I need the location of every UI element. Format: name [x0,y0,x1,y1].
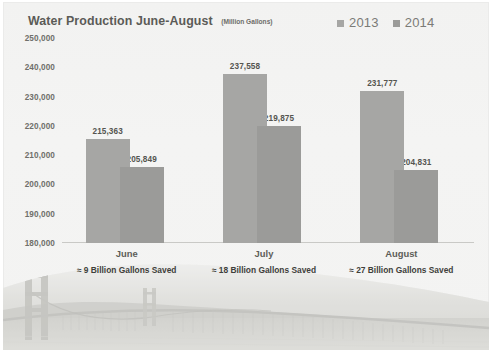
bar-group-august: 231,777204,831 [337,38,474,243]
y-axis-tick-label: 240,000 [25,63,55,72]
bar-june-2014[interactable] [120,167,164,243]
legend-label: 2013 [349,15,379,30]
bar-value-label: 215,363 [93,127,123,136]
savings-annotation-june: ≈ 9 Billion Gallons Saved [77,265,177,275]
savings-annotation-july: ≈ 18 Billion Gallons Saved [212,265,316,275]
bar-value-label: 204,831 [401,158,431,167]
chart-legend: 20132014 [337,15,434,30]
legend-swatch-icon [337,20,344,27]
y-axis-tick-label: 230,000 [25,92,55,101]
legend-item-2013[interactable]: 2013 [337,15,379,30]
y-axis-tick-label: 190,000 [25,209,55,218]
bar-value-label: 205,849 [127,155,157,164]
bar-value-label: 219,875 [264,114,294,123]
page-title: Water Production June-August [28,14,213,28]
legend-item-2014[interactable]: 2014 [393,15,435,30]
chart-plot-area: 250,000240,000230,000220,000210,000200,0… [62,38,474,243]
x-axis-category-august: August [385,248,417,259]
bar-value-label: 237,558 [230,62,260,71]
bar-august-2014[interactable] [394,170,438,243]
y-axis-tick-label: 250,000 [25,34,55,43]
y-axis-tick-label: 220,000 [25,121,55,130]
x-axis-category-june: June [116,248,138,259]
x-axis-category-july: July [255,248,274,259]
y-axis-tick-label: 180,000 [25,239,55,248]
savings-annotation-august: ≈ 27 Billion Gallons Saved [349,265,453,275]
chart-title-block: Water Production June-August (Million Ga… [28,11,273,29]
y-axis-tick-label: 200,000 [25,180,55,189]
y-axis-tick-label: 210,000 [25,151,55,160]
legend-label: 2014 [405,15,435,30]
bar-group-july: 237,558219,875 [199,38,336,243]
bar-value-label: 231,777 [367,79,397,88]
bar-july-2014[interactable] [257,126,301,243]
bar-group-june: 215,363205,849 [62,38,199,243]
chart-subtitle: (Million Gallons) [221,18,272,25]
slide-root: Water Production June-August (Million Ga… [0,0,492,352]
legend-swatch-icon [393,20,400,27]
